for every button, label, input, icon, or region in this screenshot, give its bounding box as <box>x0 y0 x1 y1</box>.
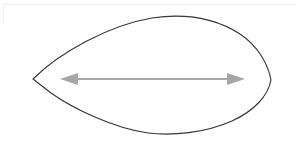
lens-diagram-svg: Lens shape with horizontal double-headed… <box>0 0 297 147</box>
diagram-canvas: Lens shape with horizontal double-headed… <box>0 0 297 147</box>
